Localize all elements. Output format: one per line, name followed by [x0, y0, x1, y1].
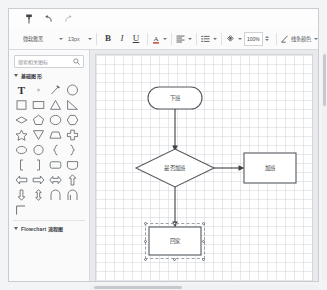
group-flowchart-label: Flowchart 流程图	[21, 225, 64, 232]
toolbar-format: 微软雅黑 13px B I U A	[9, 28, 318, 50]
shape-circle[interactable]	[64, 82, 81, 97]
vertical-scroll-thumb[interactable]	[323, 54, 326, 106]
search-container: 搜索相关图标	[9, 50, 89, 68]
separator	[147, 33, 148, 45]
separator	[196, 33, 197, 45]
shape-left-bracket[interactable]	[13, 157, 30, 172]
chevron-down-icon	[88, 38, 92, 40]
shape-right-brace[interactable]	[64, 142, 81, 157]
bullet-list-icon	[201, 35, 210, 43]
group-flowchart[interactable]: Flowchart 流程图	[9, 221, 89, 234]
chevron-down-icon	[314, 38, 318, 40]
shape-right-bracket[interactable]	[30, 157, 47, 172]
list-button[interactable]	[201, 32, 217, 46]
chevron-down-icon	[163, 38, 167, 40]
horizontal-scroll-thumb[interactable]	[94, 286, 182, 289]
shape-arrow-up[interactable]	[64, 172, 81, 187]
shape-oval[interactable]	[13, 142, 30, 157]
shapes-sidebar: 搜索相关图标 基础图形 T	[9, 50, 90, 281]
search-icon[interactable]	[73, 58, 80, 65]
font-family-value: 微软雅黑	[23, 35, 56, 42]
bold-label: B	[105, 34, 111, 43]
separator	[221, 33, 222, 45]
flowchart-diagram: 下班 是否加班 加班 回家	[96, 55, 312, 281]
resize-handle-n[interactable]	[173, 222, 176, 225]
font-color-button[interactable]: A	[152, 32, 167, 46]
separator	[171, 33, 172, 45]
shape-rectangle[interactable]	[30, 97, 47, 112]
shape-ellipse[interactable]	[47, 112, 64, 127]
horizontal-scrollbar[interactable]	[90, 285, 318, 290]
shape-circle-outline[interactable]	[30, 142, 47, 157]
fill-color-icon	[226, 34, 235, 43]
vertical-scrollbar[interactable]	[322, 50, 327, 281]
shape-pencil-line[interactable]	[47, 82, 64, 97]
bold-button[interactable]: B	[101, 32, 115, 46]
shape-arrow-updown[interactable]	[30, 187, 47, 202]
chevron-down-icon	[14, 227, 18, 230]
shape-triangle[interactable]	[47, 97, 64, 112]
shape-rounded-rect[interactable]	[47, 157, 64, 172]
shape-right-triangle[interactable]	[64, 97, 81, 112]
redo-icon[interactable]	[64, 14, 73, 23]
zoom-decrease-icon[interactable]	[265, 39, 269, 41]
shape-left-brace[interactable]	[47, 142, 64, 157]
resize-handle-ne[interactable]	[202, 222, 205, 225]
font-color-icon: A	[152, 34, 160, 44]
format-painter-icon[interactable]	[25, 14, 33, 24]
toolbar-top	[9, 9, 318, 28]
shape-diamond[interactable]	[13, 112, 30, 127]
shape-arc2[interactable]	[64, 187, 81, 202]
shape-pentagon[interactable]	[30, 112, 47, 127]
fill-color-button[interactable]	[226, 32, 242, 46]
italic-label: I	[120, 34, 123, 43]
resize-handle-e[interactable]	[202, 240, 205, 243]
resize-handle-w[interactable]	[144, 240, 147, 243]
underline-button[interactable]: U	[129, 32, 143, 46]
shape-arc[interactable]	[47, 187, 64, 202]
font-size-select[interactable]: 13px	[63, 32, 92, 46]
shape-square[interactable]	[13, 97, 30, 112]
shape-inverted-triangle[interactable]	[30, 127, 47, 142]
align-button[interactable]	[176, 32, 192, 46]
selection-outline	[145, 223, 205, 259]
shape-elbow-connector[interactable]	[13, 202, 30, 217]
shape-palette-basic: T	[9, 81, 90, 217]
svg-text:A: A	[153, 35, 158, 43]
resize-handle-nw[interactable]	[144, 222, 147, 225]
chevron-down-icon	[188, 38, 192, 40]
canvas-sheet[interactable]: 下班 是否加班 加班 回家	[96, 55, 312, 281]
search-placeholder: 搜索相关图标	[18, 58, 73, 65]
shape-shield[interactable]	[64, 157, 81, 172]
zoom-stepper[interactable]	[265, 36, 269, 41]
shape-cross[interactable]	[64, 127, 81, 142]
canvas-area[interactable]: 下班 是否加班 加班 回家	[90, 50, 318, 281]
font-family-select[interactable]: 微软雅黑	[23, 32, 63, 46]
shape-arrow-right[interactable]	[30, 172, 47, 187]
line-color-icon	[281, 35, 289, 43]
line-color-button[interactable]: 线条颜色	[281, 32, 318, 46]
resize-handle-se[interactable]	[202, 258, 205, 261]
zoom-input[interactable]: 100%	[244, 32, 263, 46]
separator	[276, 33, 277, 45]
shape-trapezoid[interactable]	[47, 127, 64, 142]
italic-button[interactable]: I	[115, 32, 129, 46]
zoom-increase-icon[interactable]	[265, 36, 269, 38]
shape-arrow-down[interactable]	[13, 187, 30, 202]
align-left-icon	[176, 35, 185, 43]
search-input[interactable]: 搜索相关图标	[14, 55, 84, 68]
undo-icon[interactable]	[44, 14, 53, 23]
shape-hexagon[interactable]	[64, 112, 81, 127]
resize-handle-s[interactable]	[173, 258, 176, 261]
separator	[96, 33, 97, 45]
shape-arrow-left[interactable]	[13, 172, 30, 187]
resize-handle-sw[interactable]	[144, 258, 147, 261]
shape-dot[interactable]	[30, 82, 47, 97]
shape-arrow-double[interactable]	[47, 172, 64, 187]
shape-text-tool[interactable]: T	[13, 82, 30, 97]
group-basic-shapes[interactable]: 基础图形	[9, 68, 89, 81]
shape-star[interactable]	[13, 127, 30, 142]
underline-label: U	[133, 34, 140, 43]
group-basic-shapes-label: 基础图形	[21, 72, 42, 79]
chevron-down-icon	[238, 38, 242, 40]
